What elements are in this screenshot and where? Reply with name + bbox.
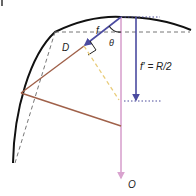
label-D: D	[62, 42, 69, 53]
mirror-arc	[13, 17, 191, 163]
label-O: O	[128, 179, 136, 190]
theta-angle-arc	[109, 26, 121, 32]
perpendicular-dashed	[84, 46, 119, 100]
label-f-prime: f′ = R/2	[140, 61, 172, 72]
label-theta: θ	[109, 38, 114, 48]
mirror-geometry-diagram: f θ D f′ = R/2 O	[0, 0, 196, 196]
ray-to-axis	[21, 93, 121, 126]
